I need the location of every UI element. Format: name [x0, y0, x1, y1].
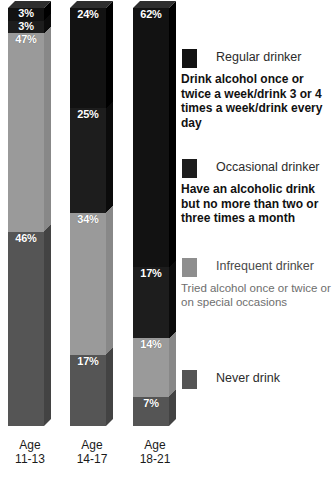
bar-segment-value-label: 3%	[8, 20, 44, 33]
stacked-column[interactable]: 24%25%34%17%	[70, 8, 106, 426]
bar-segment-value-label: 34%	[70, 213, 106, 226]
bar-segment[interactable]: 3%	[8, 21, 44, 34]
bar-segment[interactable]: 62%	[133, 8, 169, 267]
bar-segment[interactable]: 46%	[8, 232, 44, 426]
x-axis-label-age-18-21: Age 18-21	[127, 438, 183, 466]
bar-segment[interactable]: 24%	[70, 8, 106, 108]
bar-segment-value-label: 7%	[133, 397, 169, 410]
legend-item-label: Occasional drinker	[216, 160, 320, 175]
bar-segment-value-label: 62%	[133, 8, 169, 21]
chart-legend: Regular drinker Drink alcohol once or tw…	[181, 0, 334, 479]
axis-label-line-1: Age	[2, 438, 58, 452]
bar-segment-value-label: 3%	[8, 7, 44, 20]
legend-swatch-icon	[182, 258, 197, 277]
legend-item-label: Regular drinker	[216, 50, 301, 65]
stacked-bar-chart: 3%3%47%46% Age 11-13 24%25%34%17% Age 14…	[0, 0, 334, 479]
legend-swatch-icon	[182, 159, 197, 178]
axis-label-line-2: 18-21	[127, 452, 183, 466]
segment-stack: 62%17%14%7%	[133, 8, 169, 426]
bar-segment-value-label: 46%	[8, 232, 44, 245]
legend-item-description: Have an alcoholic drink but no more than…	[181, 182, 334, 226]
stacked-column[interactable]: 62%17%14%7%	[133, 8, 169, 426]
bar-segment[interactable]: 17%	[133, 267, 169, 338]
x-axis-label-age-11-13: Age 11-13	[2, 438, 58, 466]
legend-item-description: Drink alcohol once or twice a week/drink…	[181, 72, 334, 130]
chart-plot-area: 3%3%47%46% Age 11-13 24%25%34%17% Age 14…	[0, 0, 180, 479]
bar-segment-value-label: 17%	[133, 267, 169, 280]
column-side-face	[44, 1, 51, 426]
stacked-column[interactable]: 3%3%47%46%	[8, 8, 44, 426]
bar-segment[interactable]: 17%	[70, 355, 106, 426]
bar-segment[interactable]: 34%	[70, 213, 106, 355]
bar-group-age-14-17[interactable]: 24%25%34%17% Age 14-17	[70, 8, 114, 426]
bar-segment[interactable]: 25%	[70, 108, 106, 213]
bar-segment[interactable]: 7%	[133, 397, 169, 426]
bar-segment[interactable]: 14%	[133, 338, 169, 397]
bar-segment[interactable]: 47%	[8, 33, 44, 231]
x-axis-label-age-14-17: Age 14-17	[64, 438, 120, 466]
segment-stack: 24%25%34%17%	[70, 8, 106, 426]
bar-group-age-18-21[interactable]: 62%17%14%7% Age 18-21	[133, 8, 177, 426]
axis-label-line-2: 14-17	[64, 452, 120, 466]
segment-stack: 3%3%47%46%	[8, 8, 44, 426]
bar-segment-value-label: 14%	[133, 338, 169, 351]
legend-item-label: Never drink	[216, 371, 280, 386]
legend-swatch-icon	[182, 370, 197, 389]
column-side-face	[106, 1, 113, 426]
column-side-face	[169, 1, 176, 426]
legend-swatch-icon	[182, 49, 197, 68]
legend-item-label: Infrequent drinker	[216, 259, 314, 274]
bar-segment-value-label: 47%	[8, 33, 44, 46]
bar-group-age-11-13[interactable]: 3%3%47%46% Age 11-13	[8, 8, 52, 426]
bar-segment-value-label: 17%	[70, 355, 106, 368]
axis-label-line-1: Age	[64, 438, 120, 452]
bar-segment-value-label: 25%	[70, 108, 106, 121]
axis-label-line-2: 11-13	[2, 452, 58, 466]
legend-item-description: Tried alcohol once or twice or on specia…	[181, 281, 334, 310]
axis-label-line-1: Age	[127, 438, 183, 452]
bar-segment-value-label: 24%	[70, 8, 106, 21]
